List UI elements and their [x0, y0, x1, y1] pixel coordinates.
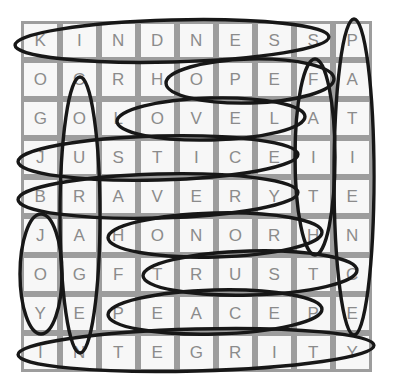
grid-cell-r6c9[interactable]: N [333, 216, 372, 255]
grid-cell-r4c2[interactable]: U [60, 138, 99, 177]
grid-cell-r3c3[interactable]: L [99, 99, 138, 138]
grid-cell-r1c4[interactable]: D [138, 21, 177, 60]
grid-cell-r1c2[interactable]: I [60, 21, 99, 60]
grid-cell-r7c4[interactable]: T [138, 255, 177, 294]
grid-cell-r1c3[interactable]: N [99, 21, 138, 60]
grid-cell-r1c5[interactable]: N [177, 21, 216, 60]
grid-cell-r2c8[interactable]: F [294, 60, 333, 99]
table-row: K I N D N E S S P [21, 21, 372, 60]
grid-cell-r1c9[interactable]: P [333, 21, 372, 60]
grid-cell-r4c6[interactable]: C [216, 138, 255, 177]
grid-cell-r9c2[interactable]: N [60, 333, 99, 372]
grid-cell-r2c5[interactable]: O [177, 60, 216, 99]
grid-cell-r4c4[interactable]: T [138, 138, 177, 177]
table-row: J A H O N O R H N [21, 216, 372, 255]
grid-cell-r3c9[interactable]: T [333, 99, 372, 138]
grid-cell-r2c7[interactable]: E [255, 60, 294, 99]
grid-cell-r4c9[interactable]: I [333, 138, 372, 177]
grid-cell-r7c9[interactable]: C [333, 255, 372, 294]
grid-cell-r7c2[interactable]: G [60, 255, 99, 294]
grid-cell-r2c1[interactable]: O [21, 60, 60, 99]
grid-cell-r3c6[interactable]: E [216, 99, 255, 138]
grid-cell-r3c4[interactable]: O [138, 99, 177, 138]
table-row: J U S T I C E I I [21, 138, 372, 177]
grid-cell-r3c7[interactable]: L [255, 99, 294, 138]
grid-cell-r2c6[interactable]: P [216, 60, 255, 99]
grid-cell-r1c6[interactable]: E [216, 21, 255, 60]
grid-cell-r6c8[interactable]: H [294, 216, 333, 255]
table-row: O G F T R U S T C [21, 255, 372, 294]
grid-cell-r1c1[interactable]: K [21, 21, 60, 60]
grid-cell-r2c3[interactable]: R [99, 60, 138, 99]
grid-cell-r8c7[interactable]: E [255, 294, 294, 333]
grid-cell-r4c8[interactable]: I [294, 138, 333, 177]
grid-cell-r8c5[interactable]: A [177, 294, 216, 333]
grid-cell-r9c9[interactable]: Y [333, 333, 372, 372]
grid-cell-r9c3[interactable]: T [99, 333, 138, 372]
grid-cell-r5c1[interactable]: B [21, 177, 60, 216]
grid-cell-r4c1[interactable]: J [21, 138, 60, 177]
grid-cell-r6c3[interactable]: H [99, 216, 138, 255]
grid-cell-r5c7[interactable]: Y [255, 177, 294, 216]
grid-cell-r5c5[interactable]: E [177, 177, 216, 216]
grid-cell-r8c2[interactable]: E [60, 294, 99, 333]
word-search-puzzle: K I N D N E S S P O C R H O P E [0, 0, 401, 388]
grid-cell-r9c5[interactable]: G [177, 333, 216, 372]
grid-cell-r9c1[interactable]: I [21, 333, 60, 372]
grid-body: K I N D N E S S P O C R H O P E [21, 21, 372, 372]
grid-cell-r6c6[interactable]: O [216, 216, 255, 255]
grid-cell-r5c9[interactable]: E [333, 177, 372, 216]
grid-cell-r9c7[interactable]: I [255, 333, 294, 372]
grid-cell-r5c6[interactable]: R [216, 177, 255, 216]
grid-cell-r4c7[interactable]: E [255, 138, 294, 177]
grid-cell-r5c3[interactable]: A [99, 177, 138, 216]
grid-cell-r7c7[interactable]: S [255, 255, 294, 294]
grid-cell-r6c1[interactable]: J [21, 216, 60, 255]
grid-cell-r8c8[interactable]: P [294, 294, 333, 333]
grid-cell-r7c8[interactable]: T [294, 255, 333, 294]
grid-cell-r3c2[interactable]: O [60, 99, 99, 138]
grid-cell-r2c9[interactable]: A [333, 60, 372, 99]
table-row: O C R H O P E F A [21, 60, 372, 99]
grid-cell-r4c5[interactable]: I [177, 138, 216, 177]
grid-cell-r9c6[interactable]: R [216, 333, 255, 372]
grid-cell-r7c6[interactable]: U [216, 255, 255, 294]
grid-cell-r6c5[interactable]: N [177, 216, 216, 255]
grid-cell-r8c1[interactable]: Y [21, 294, 60, 333]
grid-cell-r3c5[interactable]: V [177, 99, 216, 138]
grid-cell-r5c2[interactable]: R [60, 177, 99, 216]
table-row: G O L O V E L A T [21, 99, 372, 138]
grid-cell-r1c8[interactable]: S [294, 21, 333, 60]
grid-cell-r8c4[interactable]: E [138, 294, 177, 333]
grid-cell-r6c2[interactable]: A [60, 216, 99, 255]
grid-cell-r2c4[interactable]: H [138, 60, 177, 99]
grid-cell-r7c5[interactable]: R [177, 255, 216, 294]
grid-cell-r9c4[interactable]: E [138, 333, 177, 372]
table-row: B R A V E R Y T E [21, 177, 372, 216]
grid-cell-r7c3[interactable]: F [99, 255, 138, 294]
letter-grid[interactable]: K I N D N E S S P O C R H O P E [21, 21, 372, 372]
grid-cell-r5c4[interactable]: V [138, 177, 177, 216]
grid-cell-r2c2[interactable]: C [60, 60, 99, 99]
grid-cell-r5c8[interactable]: T [294, 177, 333, 216]
grid-cell-r4c3[interactable]: S [99, 138, 138, 177]
grid-cell-r6c4[interactable]: O [138, 216, 177, 255]
grid-cell-r9c8[interactable]: T [294, 333, 333, 372]
grid-cell-r6c7[interactable]: R [255, 216, 294, 255]
grid-cell-r8c6[interactable]: C [216, 294, 255, 333]
table-row: Y E P E A C E P E [21, 294, 372, 333]
table-row: I N T E G R I T Y [21, 333, 372, 372]
grid-cell-r3c1[interactable]: G [21, 99, 60, 138]
grid-cell-r8c3[interactable]: P [99, 294, 138, 333]
grid-cell-r7c1[interactable]: O [21, 255, 60, 294]
grid-cell-r1c7[interactable]: S [255, 21, 294, 60]
grid-cell-r8c9[interactable]: E [333, 294, 372, 333]
grid-cell-r3c8[interactable]: A [294, 99, 333, 138]
grid-table: K I N D N E S S P O C R H O P E [21, 21, 372, 372]
